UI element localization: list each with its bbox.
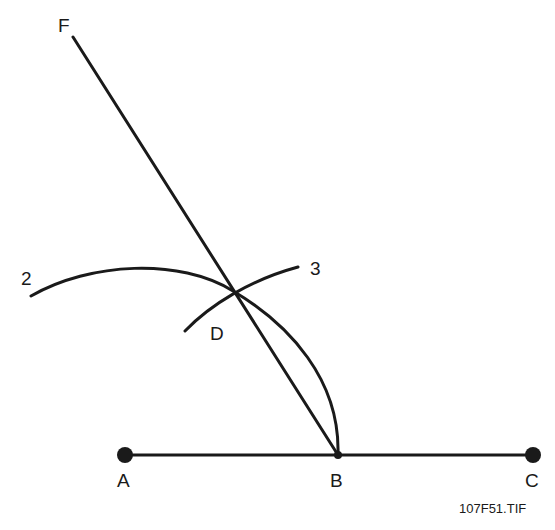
label-arc-2: 2 bbox=[21, 268, 32, 289]
label-a: A bbox=[117, 470, 130, 491]
label-c: C bbox=[525, 470, 539, 491]
point-b bbox=[334, 451, 342, 459]
figure-caption: 107F51.TIF bbox=[459, 501, 526, 516]
label-f: F bbox=[58, 15, 70, 36]
label-arc-3: 3 bbox=[310, 258, 321, 279]
point-a bbox=[117, 447, 133, 463]
arc-2 bbox=[31, 268, 338, 454]
construction-diagram: F 2 3 D A B C 107F51.TIF bbox=[0, 0, 555, 530]
line-bf bbox=[73, 37, 338, 455]
label-b: B bbox=[330, 470, 343, 491]
point-c bbox=[525, 447, 541, 463]
label-d: D bbox=[210, 323, 224, 344]
